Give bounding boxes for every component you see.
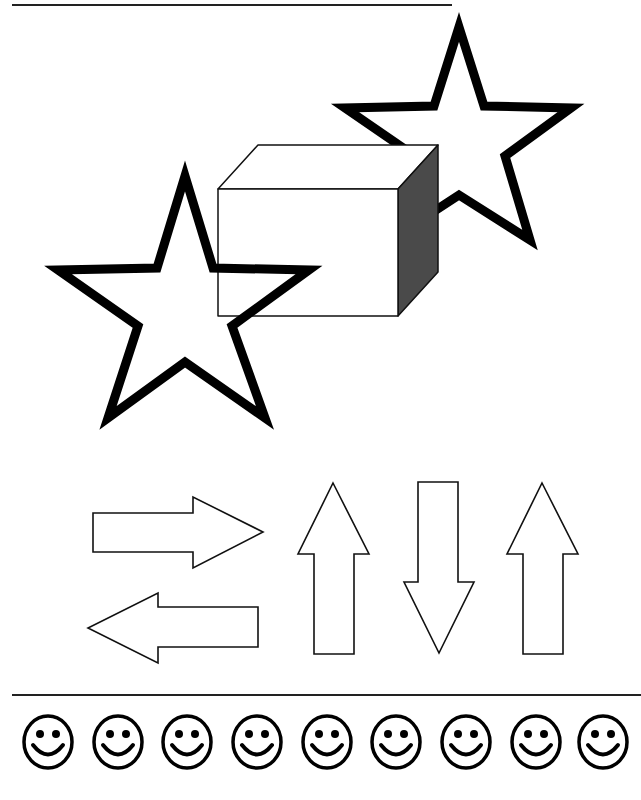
smiley-face-icon: [442, 716, 490, 768]
cube-front-face: [218, 189, 398, 316]
smiley-face-icon: [579, 716, 627, 768]
smiley-face-icon: [233, 716, 281, 768]
smiley-face-icon: [303, 716, 351, 768]
smiley-face-icon: [94, 716, 142, 768]
cube-3d: [218, 145, 438, 316]
arrow-up-1-icon: [298, 483, 369, 654]
worksheet-canvas: [0, 0, 641, 800]
arrow-right-icon: [93, 497, 263, 568]
smiley-face-icon: [512, 716, 560, 768]
arrow-up-2-icon: [507, 483, 578, 654]
smiley-face-icon: [163, 716, 211, 768]
smiley-face-icon: [372, 716, 420, 768]
arrow-left-icon: [88, 593, 258, 663]
smiley-face-icon: [24, 716, 72, 768]
arrow-down-icon: [404, 482, 474, 653]
